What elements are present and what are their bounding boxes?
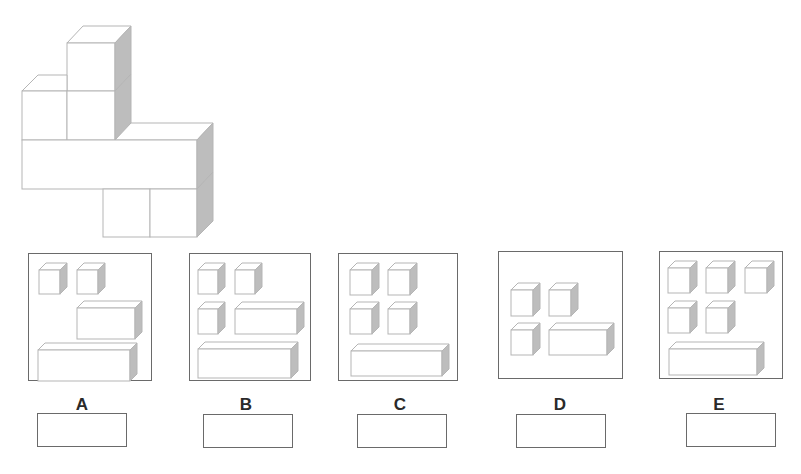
pieces-a: [29, 254, 153, 382]
option-label-a: A: [62, 395, 102, 415]
option-panel-c[interactable]: [338, 253, 458, 381]
pieces-b: [190, 254, 312, 382]
answer-box-b[interactable]: [203, 414, 293, 448]
answer-box-d[interactable]: [516, 414, 606, 448]
option-label-e: E: [699, 395, 739, 415]
target-shape-figure: [0, 0, 230, 245]
option-panel-d[interactable]: [498, 251, 623, 379]
option-label-b: B: [226, 395, 266, 415]
option-panel-a[interactable]: [28, 253, 152, 381]
option-label-d: D: [540, 395, 580, 415]
answer-box-a[interactable]: [37, 413, 127, 447]
answer-box-c[interactable]: [357, 414, 447, 448]
option-panel-e[interactable]: [659, 251, 783, 379]
pieces-d: [499, 252, 624, 380]
cube-front-face: [67, 43, 115, 91]
pieces-c: [339, 254, 459, 382]
option-panel-b[interactable]: [189, 253, 311, 381]
pieces-e: [660, 252, 784, 380]
option-label-c: C: [380, 395, 420, 415]
answer-box-e[interactable]: [686, 413, 776, 447]
